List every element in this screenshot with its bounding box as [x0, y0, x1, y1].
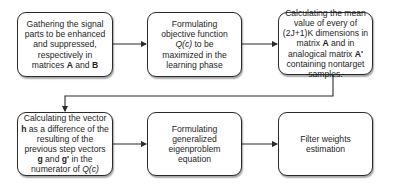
step5-label: Formulating generalized eigenproblem equ…: [151, 124, 238, 165]
arrow-step3-to-step4: [65, 75, 333, 111]
step5-generalized-eigenproblem: Formulating generalized eigenproblem equ…: [147, 112, 242, 176]
step1-label: Gathering the signal parts to be enhance…: [21, 19, 109, 70]
step6-filter-weights-estimation: Filter weights estimation: [278, 112, 373, 176]
step3-label: Calculating the mean value of every of (…: [282, 8, 369, 79]
step4-label: Calculating the vector h as a difference…: [21, 113, 109, 174]
step1-gathering-signal-parts: Gathering the signal parts to be enhance…: [17, 12, 113, 77]
step6-label: Filter weights estimation: [282, 134, 369, 154]
step2-formulating-objective-function: Formulating objective function Q(c) to b…: [147, 12, 242, 77]
step4-calculating-vector-h: Calculating the vector h as a difference…: [17, 112, 113, 176]
step3-calculating-mean-value: Calculating the mean value of every of (…: [278, 12, 373, 75]
step2-label: Formulating objective function Q(c) to b…: [154, 19, 235, 70]
